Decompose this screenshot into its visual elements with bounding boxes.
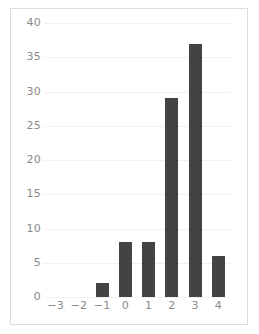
plot-frame [10,8,248,325]
bar-chart-figure: 0510152025303540 −3−2−101234 [0,0,259,334]
